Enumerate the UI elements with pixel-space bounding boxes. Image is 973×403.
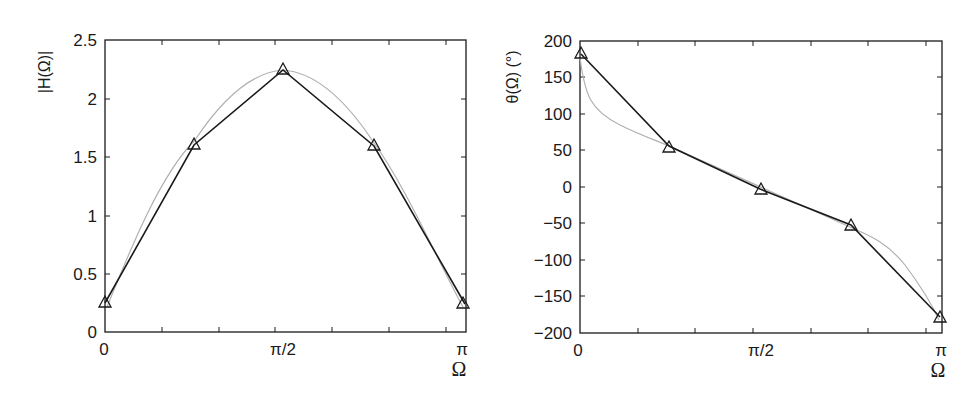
ytick-label: −200 bbox=[534, 324, 572, 343]
ytick-label: 1 bbox=[88, 207, 97, 226]
triangle-marker-icon bbox=[575, 47, 587, 58]
ytick-label: 0.5 bbox=[73, 265, 97, 284]
ytick-label: −150 bbox=[534, 287, 572, 306]
ytick-label: 1.5 bbox=[73, 148, 97, 167]
ytick-label: 0 bbox=[563, 178, 572, 197]
ytick-label: 150 bbox=[544, 68, 572, 87]
xtick-label: 0 bbox=[99, 340, 108, 359]
triangle-marker-icon bbox=[277, 63, 289, 74]
ytick-label: 2 bbox=[88, 90, 97, 109]
triangle-markers bbox=[575, 47, 946, 322]
ytick-label: 2.5 bbox=[73, 31, 97, 50]
x-axis-title: Ω bbox=[452, 358, 467, 380]
ytick-label: −50 bbox=[543, 214, 572, 233]
xtick-label: π bbox=[935, 341, 947, 360]
x-axis-title: Ω bbox=[931, 359, 946, 381]
ytick-label: −100 bbox=[534, 251, 572, 270]
magnitude-plot: 0 0.5 1 1.5 2 2.5 0 π/2 π Ω |H(Ω)| bbox=[36, 31, 469, 380]
xtick-label: 0 bbox=[573, 341, 582, 360]
phase-plot: −200 −150 −100 −50 0 50 100 150 200 0 π/… bbox=[504, 32, 947, 381]
triangle-markers bbox=[99, 63, 469, 308]
ytick-label: 100 bbox=[544, 105, 572, 124]
plot-frame bbox=[105, 40, 466, 332]
xtick-label: π bbox=[456, 340, 468, 359]
xtick-label: π/2 bbox=[748, 341, 774, 360]
sampled-line bbox=[581, 54, 940, 317]
y-axis-title: |H(Ω)| bbox=[36, 51, 53, 93]
figure: 0 0.5 1 1.5 2 2.5 0 π/2 π Ω |H(Ω)| bbox=[0, 0, 973, 403]
reference-curve bbox=[107, 70, 463, 307]
ytick-label: 200 bbox=[544, 32, 572, 51]
ytick-label: 50 bbox=[553, 141, 572, 160]
ytick-label: 0 bbox=[88, 323, 97, 342]
triangle-marker-icon bbox=[188, 138, 200, 149]
y-axis-title: θ(Ω) (°) bbox=[504, 50, 521, 103]
xtick-label: π/2 bbox=[270, 340, 296, 359]
sampled-line bbox=[105, 70, 465, 304]
